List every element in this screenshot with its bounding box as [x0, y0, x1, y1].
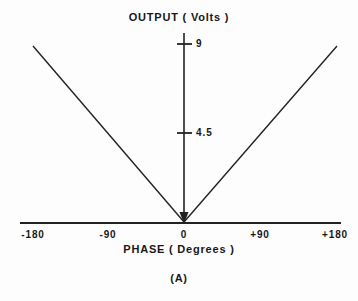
x-axis-title: PHASE ( Degrees ) [123, 243, 234, 255]
x-tick-label-minus-90: -90 [99, 229, 116, 240]
y-tick-label-4-5: 4.5 [196, 127, 213, 138]
x-tick-label-plus-180: +180 [322, 229, 348, 240]
figure-panel: OUTPUT ( Volts ) 9 4.5 -180 -90 0 +90 +1… [0, 0, 358, 301]
y-tick-label-9: 9 [196, 38, 202, 49]
plot-canvas [0, 0, 358, 301]
data-line-left-branch [33, 46, 184, 222]
figure-caption: (A) [170, 272, 188, 284]
x-tick-label-zero: 0 [181, 229, 187, 240]
x-tick-label-minus-180: -180 [21, 229, 45, 240]
x-tick-label-plus-90: +90 [250, 229, 270, 240]
y-axis-title: OUTPUT ( Volts ) [129, 11, 230, 23]
